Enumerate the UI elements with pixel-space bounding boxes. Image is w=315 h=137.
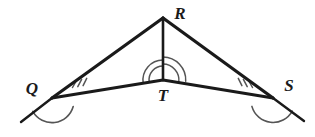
segment-QT (52, 80, 163, 98)
geometry-figure: R Q T S (0, 0, 315, 137)
ray-beyond-Q (21, 98, 52, 122)
vertex-label-Q: Q (26, 80, 38, 97)
segment-TS (163, 80, 273, 98)
vertex-label-T: T (158, 87, 168, 104)
segment-QR (52, 18, 163, 98)
segment-RS (163, 18, 273, 98)
vertex-label-S: S (284, 77, 293, 94)
geometry-canvas (0, 0, 315, 137)
vertex-label-R: R (174, 5, 185, 22)
ray-beyond-S (273, 98, 304, 121)
